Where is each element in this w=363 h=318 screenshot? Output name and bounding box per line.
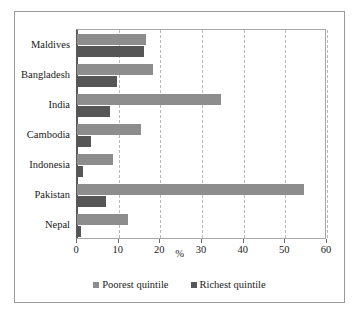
bar-row: India bbox=[77, 90, 325, 120]
legend-label: Richest quintile bbox=[200, 279, 266, 290]
y-axis-label: Indonesia bbox=[0, 159, 70, 171]
chart-figure: MaldivesBangladeshIndiaCambodiaIndonesia… bbox=[14, 11, 345, 303]
chart-legend: Poorest quintileRichest quintile bbox=[15, 279, 344, 290]
bar-poorest-quintile bbox=[77, 184, 304, 195]
legend-item[interactable]: Richest quintile bbox=[191, 279, 266, 290]
bar-poorest-quintile bbox=[77, 94, 221, 105]
x-tick-mark-10 bbox=[118, 239, 119, 243]
x-tick-mark-0 bbox=[76, 239, 77, 243]
x-tick-mark-20 bbox=[159, 239, 160, 243]
x-tick-mark-30 bbox=[201, 239, 202, 243]
x-tick-mark-60 bbox=[326, 239, 327, 243]
bar-poorest-quintile bbox=[77, 124, 141, 135]
bar-gap bbox=[77, 165, 325, 166]
plot-area: MaldivesBangladeshIndiaCambodiaIndonesia… bbox=[76, 29, 326, 239]
bar-row: Maldives bbox=[77, 30, 325, 60]
bar-poorest-quintile bbox=[77, 154, 113, 165]
bar-row: Nepal bbox=[77, 210, 325, 240]
bar-richest-quintile bbox=[77, 106, 110, 117]
bar-gap bbox=[77, 225, 325, 226]
y-axis-label: Cambodia bbox=[0, 129, 70, 141]
bar-row: Bangladesh bbox=[77, 60, 325, 90]
bar-poorest-quintile bbox=[77, 34, 146, 45]
bar-richest-quintile bbox=[77, 166, 83, 177]
x-axis-title: % bbox=[15, 248, 344, 259]
y-axis-label: Pakistan bbox=[0, 189, 70, 201]
x-tick-mark-40 bbox=[243, 239, 244, 243]
bar-row: Pakistan bbox=[77, 180, 325, 210]
bar-richest-quintile bbox=[77, 136, 91, 147]
bar-richest-quintile bbox=[77, 76, 117, 87]
bar-richest-quintile bbox=[77, 196, 106, 207]
bar-row: Indonesia bbox=[77, 150, 325, 180]
x-tick-mark-50 bbox=[284, 239, 285, 243]
bar-richest-quintile bbox=[77, 46, 144, 57]
gridline-60 bbox=[327, 30, 328, 238]
bar-gap bbox=[77, 195, 325, 196]
legend-label: Poorest quintile bbox=[102, 279, 168, 290]
legend-item[interactable]: Poorest quintile bbox=[93, 279, 168, 290]
bar-richest-quintile bbox=[77, 226, 81, 237]
bar-poorest-quintile bbox=[77, 64, 153, 75]
y-axis-label: Nepal bbox=[0, 219, 70, 231]
y-axis-label: Bangladesh bbox=[0, 69, 70, 81]
y-axis-label: India bbox=[0, 99, 70, 111]
legend-swatch-icon bbox=[93, 282, 99, 288]
y-axis-label: Maldives bbox=[0, 39, 70, 51]
legend-swatch-icon bbox=[191, 282, 197, 288]
bar-gap bbox=[77, 105, 325, 106]
bar-row: Cambodia bbox=[77, 120, 325, 150]
bar-gap bbox=[77, 135, 325, 136]
bar-poorest-quintile bbox=[77, 214, 128, 225]
